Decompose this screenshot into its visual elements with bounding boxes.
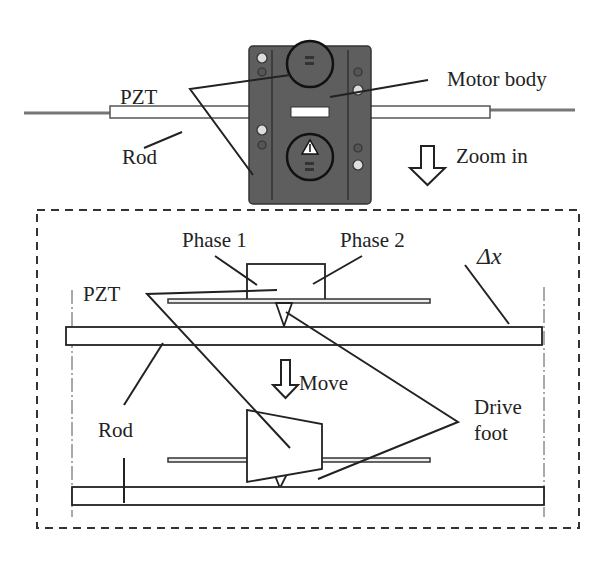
zoom-down-arrow-icon — [410, 146, 445, 185]
rod-bottom — [72, 487, 544, 505]
label-pzt-top: PZT — [120, 85, 158, 109]
label-delta-x: Δx — [476, 243, 502, 269]
label-drive: Drive — [474, 395, 522, 419]
move-down-arrow-icon — [273, 360, 298, 398]
label-phase1: Phase 1 — [182, 228, 247, 252]
label-zoom-in: Zoom in — [456, 144, 528, 168]
label-motor-body: Motor body — [447, 67, 547, 91]
label-rod-bottom: Rod — [98, 418, 134, 442]
rod-top — [66, 327, 542, 345]
phase-block-top — [247, 264, 325, 300]
label-phase2: Phase 2 — [340, 228, 405, 252]
plate-top — [168, 299, 430, 303]
diagram: PZT Motor body Rod Zoom in Phase 1 Phase… — [0, 0, 608, 561]
label-foot: foot — [474, 421, 508, 445]
phase-block-bottom-deformed — [247, 410, 322, 482]
label-rod-top: Rod — [122, 145, 158, 169]
state-before — [66, 264, 542, 345]
motor-photo — [24, 41, 575, 204]
label-pzt-bottom: PZT — [83, 282, 121, 306]
label-move: Move — [299, 371, 348, 395]
